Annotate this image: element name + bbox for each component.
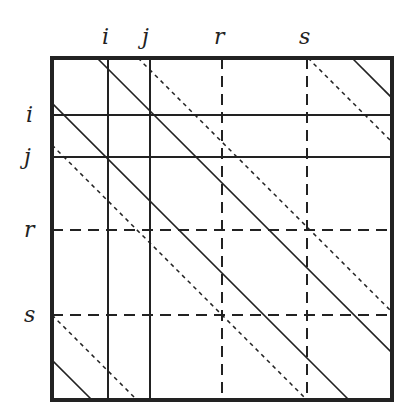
diagonal-dashed-top-right	[308, 58, 394, 144]
diagonal-solid-top-right	[352, 58, 394, 100]
row-label-r: r	[24, 217, 36, 242]
row-label-i: i	[26, 102, 33, 127]
diagonal-solid-upper	[97, 58, 392, 353]
column-label-j: j	[137, 24, 149, 49]
matrix-diagram: i j r s i j r s	[0, 0, 409, 420]
diagonal-solid-bottom-left	[52, 360, 92, 400]
diagonal-solid-lower	[52, 103, 349, 400]
column-label-i: i	[102, 24, 109, 49]
column-label-s: s	[299, 24, 310, 49]
row-label-j: j	[19, 144, 31, 169]
column-label-r: r	[214, 24, 226, 49]
diagonal-dashed-lower	[52, 145, 307, 400]
diagonal-dashed-bottom-left	[52, 315, 137, 400]
diagonal-dashed-upper	[138, 58, 392, 312]
row-label-s: s	[24, 302, 35, 327]
